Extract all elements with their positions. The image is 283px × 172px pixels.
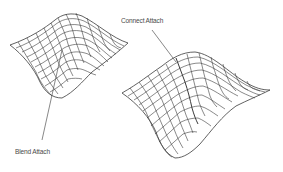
connect-attach-label: Connect Attach bbox=[121, 16, 163, 25]
connect-attach-leader-line bbox=[152, 30, 176, 62]
connect-attach-surface bbox=[122, 52, 270, 158]
blend-attach-leader-line bbox=[42, 50, 62, 140]
blend-attach-surface bbox=[10, 13, 128, 98]
blend-attach-label: Blend Attach bbox=[15, 147, 50, 156]
